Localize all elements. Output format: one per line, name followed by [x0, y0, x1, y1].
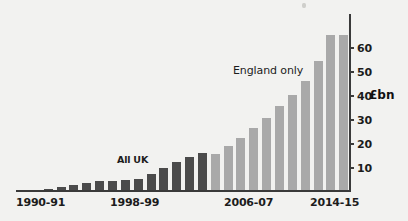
y-tick-label-50: 50 — [357, 67, 372, 78]
bar-chart: 10 20 30 40 50 60 £bn 1990-91 1998-99 20… — [0, 0, 408, 221]
bar-2011-12 — [288, 95, 297, 191]
y-tick-label-20: 20 — [357, 139, 372, 150]
bar-2010-11 — [275, 106, 284, 191]
bar-2005-06 — [211, 154, 220, 191]
bar-2001-02 — [159, 168, 168, 191]
annotation-all-uk: All UK — [117, 154, 148, 165]
bar-2009-10 — [262, 118, 271, 191]
x-tick-label-2014-15: 2014-15 — [310, 196, 359, 209]
bar-2012-13 — [301, 81, 310, 191]
y-tick-10 — [349, 167, 354, 169]
bar-2008-09 — [249, 128, 258, 191]
y-tick-60 — [349, 47, 354, 49]
y-tick-label-30: 30 — [357, 115, 372, 126]
bar-2002-03 — [172, 162, 181, 191]
bar-2006-07 — [224, 146, 233, 191]
y-tick-30 — [349, 119, 354, 121]
image-artifact-speck — [302, 3, 306, 8]
y-tick-40 — [349, 95, 354, 97]
bar-2003-04 — [185, 157, 194, 191]
x-tick-label-1998-99: 1998-99 — [110, 196, 159, 209]
x-axis-line — [16, 190, 350, 192]
x-tick-label-2006-07: 2006-07 — [224, 196, 273, 209]
y-tick-50 — [349, 71, 354, 73]
x-tick-label-1990-91: 1990-91 — [16, 196, 65, 209]
bar-2014-15 — [326, 35, 335, 191]
y-tick-label-60: 60 — [357, 43, 372, 54]
bar-series-container — [18, 14, 348, 191]
plot-area — [18, 14, 348, 191]
bar-2004-05 — [198, 153, 207, 191]
bar-2015-16 — [339, 35, 348, 191]
bar-2000-01 — [147, 174, 156, 191]
annotation-england-only: England only — [233, 64, 303, 77]
y-tick-label-10: 10 — [357, 163, 372, 174]
y-axis-title: £bn — [369, 88, 394, 102]
bar-2013-14 — [314, 61, 323, 191]
y-tick-20 — [349, 143, 354, 145]
bar-2007-08 — [236, 138, 245, 191]
y-axis-line — [349, 14, 351, 192]
